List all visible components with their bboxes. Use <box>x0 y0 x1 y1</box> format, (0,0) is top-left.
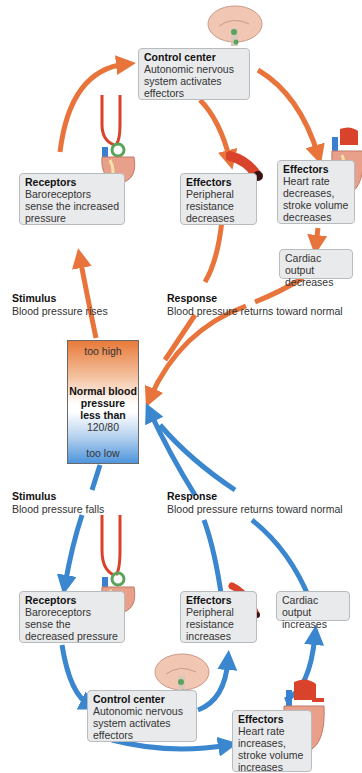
control-center-box-bottom: Control center Autonomic nervous system … <box>87 690 197 742</box>
cardiac-output-text: Cardiac output decreases <box>285 252 333 288</box>
effectors-heart-box-top: Effectors Heart rate decreases, stroke v… <box>277 160 355 224</box>
effectors-text: Heart rate decreases, stroke volume decr… <box>283 175 348 223</box>
gauge-normal-range: Normal blood pressure less than 120/80 <box>68 385 138 433</box>
arrow-response-to-gauge-up <box>150 306 246 398</box>
effectors-vessel-box-bottom: Effectors Peripheral resistance increase… <box>180 591 257 643</box>
control-center-box-top: Control center Autonomic nervous system … <box>138 48 250 100</box>
arrow-stimulus-to-receptors-down <box>65 515 82 585</box>
receptors-title: Receptors <box>25 594 119 606</box>
effectors-text: Peripheral resistance decreases <box>186 188 234 224</box>
effectors-text: Heart rate increases, stroke volume incr… <box>238 725 303 773</box>
stimulus-title: Stimulus <box>12 292 108 305</box>
gauge-too-high: too high <box>68 345 138 357</box>
gauge-too-low: too low <box>68 447 138 459</box>
brain-icon <box>205 2 263 54</box>
response-label-bottom: Response Blood pressure returns toward n… <box>167 490 343 516</box>
receptors-box-bottom: Receptors Baroreceptors sense the decrea… <box>19 591 125 643</box>
receptors-title: Receptors <box>25 176 119 188</box>
receptors-text: Baroreceptors sense the increased pressu… <box>25 188 119 224</box>
response-text: Blood pressure returns toward normal <box>167 503 343 515</box>
cardiac-output-box-bottom: Cardiac output increases <box>276 591 350 621</box>
arrow-brain-to-heart-up <box>258 70 318 155</box>
receptors-box-top: Receptors Baroreceptors sense the increa… <box>19 173 125 225</box>
cardiac-output-text: Cardiac output increases <box>282 594 327 630</box>
stimulus-text: Blood pressure falls <box>12 503 104 515</box>
arrow-heart-to-co-up <box>316 228 318 245</box>
effectors-vessel-box-top: Effectors Peripheral resistance decrease… <box>180 173 257 225</box>
stimulus-label-bottom: Stimulus Blood pressure falls <box>12 490 104 516</box>
effectors-title: Effectors <box>186 594 251 606</box>
gauge-title-line: pressure <box>81 397 125 409</box>
control-center-title: Control center <box>144 51 244 63</box>
blood-pressure-gauge: too high Normal blood pressure less than… <box>67 340 139 464</box>
arrow-gauge-to-stimulus-down <box>92 465 100 490</box>
response-title: Response <box>167 490 343 503</box>
gauge-title-line: Normal blood <box>69 385 137 397</box>
arrow-vessel-to-response-down <box>204 520 222 600</box>
control-center-title: Control center <box>93 693 191 705</box>
cardiac-output-box-top: Cardiac output decreases <box>279 249 353 279</box>
stimulus-text: Blood pressure rises <box>12 305 108 317</box>
response-text: Blood pressure returns toward normal <box>167 305 343 317</box>
control-center-text: Autonomic nervous system activates effec… <box>93 705 183 741</box>
heart-with-arteries-icon <box>90 95 140 185</box>
response-title: Response <box>167 292 343 305</box>
effectors-title: Effectors <box>283 163 349 175</box>
gauge-value: 120/80 <box>87 421 119 433</box>
response-label-top: Response Blood pressure returns toward n… <box>167 292 343 318</box>
stimulus-title: Stimulus <box>12 490 104 503</box>
arrow-vessel-to-response-up <box>205 220 222 282</box>
arrow-receptors-to-control-down <box>62 645 90 705</box>
receptors-text: Baroreceptors sense the decreased pressu… <box>25 606 118 642</box>
effectors-heart-box-bottom: Effectors Heart rate increases, stroke v… <box>232 710 312 772</box>
control-center-text: Autonomic nervous system activates effec… <box>144 63 234 99</box>
effectors-title: Effectors <box>186 176 251 188</box>
gauge-title-line: less than <box>80 409 126 421</box>
stimulus-label-top: Stimulus Blood pressure rises <box>12 292 108 318</box>
effectors-text: Peripheral resistance increases <box>186 606 234 642</box>
effectors-title: Effectors <box>238 713 306 725</box>
